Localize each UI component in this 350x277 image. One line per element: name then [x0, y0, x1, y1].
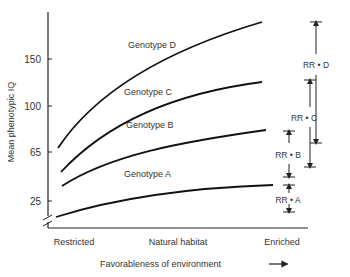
x-tick-restricted: Restricted	[54, 237, 95, 247]
label-genotype-a: Genotype A	[124, 169, 171, 179]
y-tick-150: 150	[24, 54, 41, 65]
y-tick-65: 65	[30, 147, 42, 158]
curve-genotype-a	[56, 185, 273, 217]
y-axis-label: Mean phenotypic IQ	[6, 82, 16, 163]
rr-a-label: RR • A	[275, 195, 301, 205]
y-tick-100: 100	[24, 101, 41, 112]
rr-d-bracket	[310, 22, 322, 143]
label-genotype-b: Genotype B	[126, 120, 174, 130]
reaction-range-chart: 150 100 65 25 Mean phenotypic IQ Restric…	[0, 0, 350, 277]
rr-c-label: RR • C	[291, 113, 317, 123]
y-tick-25: 25	[30, 196, 42, 207]
label-genotype-d: Genotype D	[128, 40, 177, 50]
y-axis	[43, 12, 52, 228]
rr-d-label: RR • D	[303, 60, 329, 70]
x-tick-natural: Natural habitat	[149, 237, 208, 247]
x-tick-enriched: Enriched	[264, 237, 300, 247]
label-genotype-c: Genotype C	[124, 87, 173, 97]
x-axis-label: Favorableness of environment	[100, 259, 222, 269]
rr-c-bracket	[304, 80, 316, 167]
rr-b-label: RR • B	[275, 150, 301, 160]
